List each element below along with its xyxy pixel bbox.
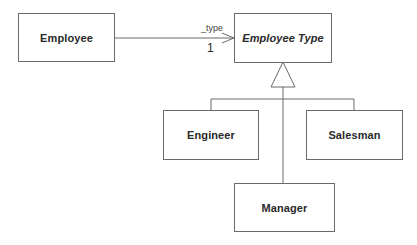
association-role-label: _type <box>201 23 223 33</box>
class-name: Employee <box>40 32 93 44</box>
class-name: Manager <box>262 202 308 214</box>
class-employee-type[interactable]: Employee Type <box>234 13 332 63</box>
class-manager[interactable]: Manager <box>234 183 335 232</box>
class-engineer[interactable]: Engineer <box>163 110 259 160</box>
class-name: Salesman <box>328 129 380 141</box>
uml-diagram: Employee Employee Type Engineer Salesman… <box>0 0 417 245</box>
class-name: Employee Type <box>242 32 324 44</box>
class-employee[interactable]: Employee <box>18 13 115 62</box>
class-name: Engineer <box>187 129 235 141</box>
association-multiplicity: 1 <box>207 41 214 55</box>
class-salesman[interactable]: Salesman <box>306 110 403 160</box>
generalization-triangle-icon <box>271 62 295 87</box>
